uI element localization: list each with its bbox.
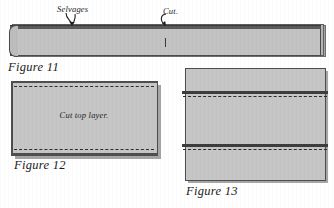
fabric-face (185, 68, 326, 181)
fold-band-upper (182, 91, 328, 94)
cut-line-lower-dashed (183, 149, 327, 150)
fold-band-lower (182, 144, 328, 147)
figure-11-caption: Figure 11 (8, 60, 59, 75)
fold-left-edge (9, 25, 18, 57)
figure-13-fabric-rectangle (185, 68, 327, 182)
figure-12-caption: Figure 12 (14, 158, 66, 173)
cut-line-upper-dashed (183, 96, 327, 97)
cut-mark-tick (165, 38, 166, 47)
selvages-arrow-icon (62, 12, 84, 28)
cut-arrow-icon (157, 13, 175, 29)
figure-12-fabric-rectangle: Cut top layer. (12, 82, 158, 156)
figure-plate: Selvages Cut. Figure 11 Cut top layer. F… (0, 0, 334, 208)
figure-13-caption: Figure 13 (186, 184, 238, 199)
cut-line-bottom-dashed (14, 149, 154, 150)
bottom-edge-strip (11, 153, 158, 156)
top-edge-strip (11, 81, 158, 84)
cut-top-layer-label: Cut top layer. (12, 110, 156, 120)
cut-line-top-dashed (14, 86, 154, 87)
